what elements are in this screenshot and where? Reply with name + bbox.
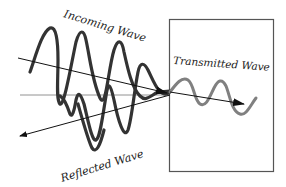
boundary-box (170, 20, 274, 172)
reflected-wave (60, 64, 170, 140)
reflected-wave-label: Reflected Wave (58, 147, 145, 185)
incoming-wave-label: Incoming Wave (61, 7, 148, 45)
transmitted-wave (170, 79, 256, 114)
reflected-arrow (20, 95, 170, 136)
transmitted-wave-label: Transmitted Wave (173, 54, 270, 73)
wave-diagram: Incoming Wave Transmitted Wave Reflected… (0, 0, 286, 187)
